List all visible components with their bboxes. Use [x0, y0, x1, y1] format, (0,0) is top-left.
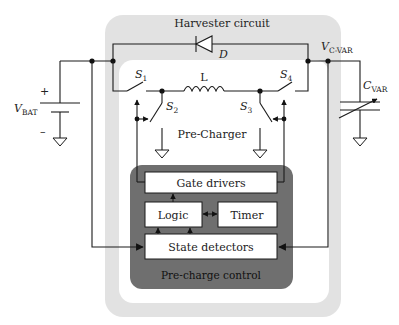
gate-drivers-block: Gate drivers	[145, 172, 277, 193]
svg-text:L: L	[200, 71, 208, 84]
ground-icon	[353, 138, 367, 146]
timer-block: Timer	[218, 202, 277, 227]
svg-text:Timer: Timer	[230, 209, 264, 222]
battery: + – VBAT	[14, 61, 113, 146]
precharger-label: Pre-Charger	[177, 128, 247, 141]
logic-block: Logic	[145, 202, 202, 227]
diode-label: D	[218, 48, 228, 61]
vbat-label: VBAT	[14, 102, 37, 117]
ground-icon	[53, 138, 67, 146]
harvester-title: Harvester circuit	[174, 17, 270, 30]
precharge-control-label: Pre-charge control	[161, 269, 262, 281]
svg-text:+: +	[40, 85, 49, 98]
circuit-diagram: Harvester circuit D + – VBAT S1 L	[0, 0, 399, 325]
svg-text:Logic: Logic	[158, 209, 189, 222]
state-detectors-block: State detectors	[145, 234, 277, 259]
svg-text:State detectors: State detectors	[168, 241, 254, 254]
cvar-label: CVAR	[363, 79, 388, 94]
svg-text:Gate drivers: Gate drivers	[176, 177, 246, 190]
variable-capacitor-icon	[340, 102, 380, 110]
svg-text:–: –	[40, 125, 46, 138]
